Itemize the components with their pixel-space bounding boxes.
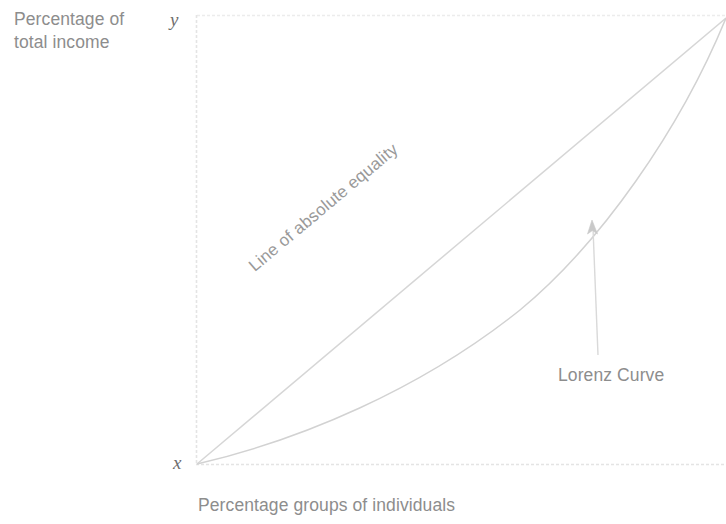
y-axis-letter: y bbox=[170, 9, 178, 31]
plot-area bbox=[0, 0, 726, 524]
lorenz-callout-arrow bbox=[593, 228, 598, 355]
lorenz-curve-figure: Percentage of total income y x Percentag… bbox=[0, 0, 726, 524]
x-axis-letter: x bbox=[173, 452, 181, 474]
x-axis-label: Percentage groups of individuals bbox=[198, 494, 455, 516]
y-axis-label: Percentage of total income bbox=[14, 8, 164, 54]
lorenz-curve-label: Lorenz Curve bbox=[558, 365, 664, 386]
